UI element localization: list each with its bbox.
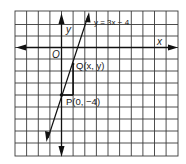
y-axis-down-arrow-icon — [59, 146, 65, 157]
point-q-label: Q(x, y) — [76, 60, 105, 71]
y-axis — [59, 13, 65, 157]
x-axis-left-arrow-icon — [16, 45, 26, 51]
point-p-marker — [60, 93, 64, 97]
x-axis-label: x — [156, 36, 163, 47]
line-top-arrow-icon — [85, 12, 91, 23]
grid — [15, 11, 178, 156]
point-p-label: P(0, −4) — [66, 96, 100, 107]
x-axis — [16, 45, 178, 51]
y-axis-up-arrow-icon — [59, 13, 65, 24]
coordinate-graph: y x O y = 3x − 4 Q(x, y) P(0, −4) — [0, 0, 186, 164]
x-axis-right-arrow-icon — [168, 45, 178, 51]
point-q-marker — [72, 63, 75, 66]
equation-label: y = 3x − 4 — [94, 18, 130, 27]
origin-label: O — [52, 49, 60, 60]
y-axis-label: y — [65, 24, 72, 35]
